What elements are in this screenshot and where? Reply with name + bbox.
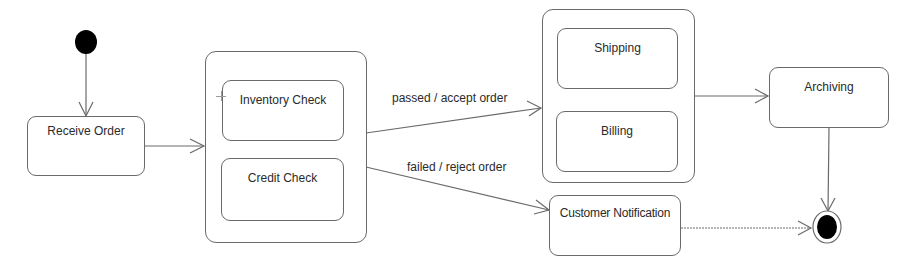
final-state-inner-icon — [817, 215, 837, 239]
state-label: Credit Check — [222, 171, 343, 185]
state-label: Shipping — [558, 41, 677, 55]
state-billing[interactable]: Billing — [556, 111, 678, 172]
state-receive-order[interactable]: Receive Order — [27, 116, 145, 176]
state-label: Inventory Check — [223, 93, 343, 107]
state-customer-notification[interactable]: Customer Notification — [549, 195, 681, 256]
state-archiving[interactable]: Archiving — [769, 67, 889, 128]
state-label: Billing — [557, 124, 677, 138]
cursor-crosshair-icon — [221, 91, 222, 101]
transition-archiving-to-final — [828, 128, 829, 211]
state-shipping[interactable]: Shipping — [557, 28, 678, 89]
state-credit-check[interactable]: Credit Check — [221, 158, 344, 221]
state-label: Archiving — [770, 80, 888, 94]
transition-label-failed: failed / reject order — [407, 160, 506, 174]
transition-label-passed: passed / accept order — [392, 91, 507, 105]
transition-passed — [366, 108, 541, 133]
state-label: Receive Order — [28, 124, 144, 138]
state-inventory-check[interactable]: Inventory Check — [222, 80, 344, 141]
initial-state-icon — [75, 30, 97, 54]
state-label: Customer Notification — [550, 206, 680, 220]
